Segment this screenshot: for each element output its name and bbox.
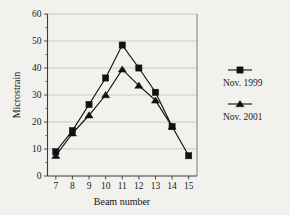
chart-background xyxy=(0,0,290,215)
chart-figure: 0102030405060 789101112131415 Beam numbe… xyxy=(0,0,290,215)
data-point-s1-x11 xyxy=(119,42,125,48)
x-tick-label-13: 13 xyxy=(151,181,161,191)
data-point-s1-x13 xyxy=(152,89,158,95)
legend-label-2: Nov. 2001 xyxy=(223,112,263,122)
x-tick-label-9: 9 xyxy=(87,181,92,191)
legend-label-1: Nov. 1999 xyxy=(223,78,263,88)
data-point-s1-x12 xyxy=(136,65,142,71)
y-axis-title: Microstrain xyxy=(11,72,22,119)
x-tick-label-15: 15 xyxy=(184,181,194,191)
x-tick-label-14: 14 xyxy=(167,181,177,191)
data-point-s1-x15 xyxy=(186,153,192,159)
y-tick-label-40: 40 xyxy=(32,63,42,73)
x-tick-label-10: 10 xyxy=(101,181,111,191)
x-tick-label-11: 11 xyxy=(118,181,127,191)
data-point-s1-x10 xyxy=(103,75,109,81)
legend-square-marker-1 xyxy=(237,67,243,73)
x-tick-label-7: 7 xyxy=(53,181,58,191)
x-tick-labels-group: 789101112131415 xyxy=(53,181,193,191)
y-tick-label-50: 50 xyxy=(32,36,42,46)
x-tick-label-8: 8 xyxy=(70,181,75,191)
y-tick-label-0: 0 xyxy=(37,171,42,181)
data-point-s1-x9 xyxy=(86,101,92,107)
y-tick-label-60: 60 xyxy=(32,9,42,19)
x-tick-label-12: 12 xyxy=(134,181,144,191)
line-chart: 0102030405060 789101112131415 Beam numbe… xyxy=(0,0,290,215)
x-axis-title: Beam number xyxy=(94,196,151,207)
y-tick-label-30: 30 xyxy=(32,90,42,100)
y-tick-label-10: 10 xyxy=(32,144,42,154)
y-tick-label-20: 20 xyxy=(32,117,42,127)
